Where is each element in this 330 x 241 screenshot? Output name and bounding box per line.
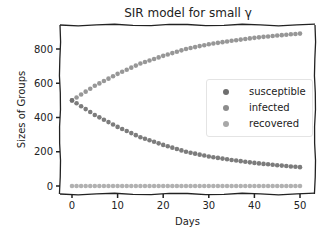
y-tick-label: 200 [34,146,53,157]
data-point-recovered [293,184,298,189]
data-point-recovered [97,184,102,189]
data-point-recovered [147,184,152,189]
data-point-recovered [138,184,143,189]
data-point-infected [83,89,88,94]
data-point-susceptible [156,141,161,146]
data-point-recovered [115,184,120,189]
data-point-infected [216,41,221,46]
data-point-susceptible [234,158,239,163]
data-point-recovered [175,184,180,189]
data-point-infected [289,32,294,37]
data-point-susceptible [83,107,88,112]
x-tick-label: 0 [69,200,75,211]
data-point-recovered [248,184,253,189]
data-point-infected [165,52,170,57]
data-point-infected [156,55,161,60]
data-point-recovered [279,184,284,189]
data-point-susceptible [238,159,243,164]
data-point-recovered [143,184,148,189]
data-point-susceptible [143,136,148,141]
data-point-susceptible [193,151,198,156]
data-point-susceptible [225,157,230,162]
data-point-recovered [111,184,116,189]
legend-marker-icon [223,121,229,127]
data-point-recovered [179,184,184,189]
data-point-susceptible [266,162,271,167]
data-point-susceptible [161,143,166,148]
data-point-recovered [93,184,98,189]
data-point-infected [120,69,125,74]
data-point-recovered [70,184,75,189]
data-point-susceptible [279,163,284,168]
data-point-infected [152,57,157,62]
data-point-susceptible [170,145,175,150]
data-point-susceptible [165,144,170,149]
data-point-recovered [225,184,230,189]
data-point-susceptible [79,104,84,109]
x-axis-label: Days [175,216,200,227]
legend-item-susceptible: susceptible [207,84,312,100]
data-point-susceptible [111,122,116,127]
legend-marker-icon [223,89,229,95]
data-point-infected [147,58,152,63]
x-tick-label: 10 [111,200,124,211]
data-point-infected [270,34,275,39]
data-point-recovered [252,184,257,189]
data-point-recovered [229,184,234,189]
data-point-susceptible [147,138,152,143]
data-point-recovered [270,184,275,189]
data-point-infected [124,67,129,72]
data-point-recovered [275,184,280,189]
data-point-infected [298,31,303,36]
legend-item-recovered: recovered [207,116,312,132]
data-point-recovered [202,184,207,189]
data-point-recovered [124,184,129,189]
data-point-infected [175,49,180,54]
plot-frame-top [60,24,315,26]
data-point-susceptible [252,161,257,166]
data-point-susceptible [70,98,75,103]
data-point-infected [102,79,107,84]
data-point-recovered [289,184,294,189]
data-point-susceptible [88,110,93,115]
data-point-susceptible [115,125,120,130]
data-point-susceptible [129,131,134,136]
data-point-susceptible [175,147,180,152]
data-point-infected [129,65,134,70]
data-point-susceptible [93,113,98,118]
data-point-recovered [207,184,212,189]
data-point-susceptible [102,117,107,122]
data-point-susceptible [152,140,157,145]
data-point-infected [238,37,243,42]
data-point-susceptible [284,164,289,169]
data-point-susceptible [179,148,184,153]
data-point-recovered [197,184,202,189]
data-point-susceptible [211,155,216,160]
x-tick-label: 50 [294,200,307,211]
data-point-infected [211,41,216,46]
data-point-susceptible [229,158,234,163]
plot-frame-right [314,25,315,194]
data-point-recovered [106,184,111,189]
data-point-infected [106,76,111,81]
data-point-infected [88,86,93,91]
data-point-recovered [193,184,198,189]
data-point-susceptible [97,115,102,120]
data-point-recovered [238,184,243,189]
data-point-recovered [102,184,107,189]
y-tick-label: 600 [34,78,53,89]
data-point-infected [188,46,193,51]
data-point-susceptible [293,165,298,170]
data-point-recovered [161,184,166,189]
data-point-infected [220,40,225,45]
data-point-susceptible [270,162,275,167]
data-point-recovered [165,184,170,189]
data-point-infected [293,32,298,37]
x-tick-label: 30 [202,200,215,211]
data-point-recovered [129,184,134,189]
data-point-susceptible [197,152,202,157]
data-point-infected [161,54,166,59]
data-point-susceptible [220,156,225,161]
data-point-recovered [298,184,303,189]
data-point-susceptible [134,133,139,138]
